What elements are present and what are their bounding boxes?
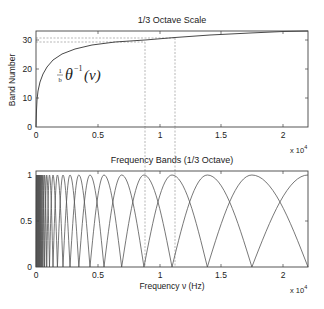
top-ylabel: Band Number [7, 54, 17, 107]
bottom-xtick-1: 1 [158, 270, 163, 280]
top-plot-title: 1/3 Octave Scale [138, 15, 207, 25]
bottom-xtick-1-5: 1.5 [215, 270, 227, 280]
svg-text:b: b [58, 76, 61, 83]
curve-annotation: 1 b θ −1 (ν) [57, 64, 101, 84]
svg-text:θ: θ [65, 66, 73, 83]
bottom-reference-lines [145, 127, 175, 267]
top-plot: 1/3 Octave Scale 0 10 20 30 [7, 15, 308, 155]
bottom-x-multiplier: x 104 [290, 284, 307, 295]
figure: 1/3 Octave Scale 0 10 20 30 [0, 0, 324, 309]
band-filter-curve [252, 175, 308, 267]
top-x-multiplier: x 104 [290, 144, 307, 155]
svg-text:1: 1 [58, 67, 61, 74]
bottom-axes-frame [36, 171, 308, 267]
svg-text:(ν): (ν) [84, 67, 101, 84]
band-filters [36, 175, 308, 267]
top-xtick-1-5: 1.5 [215, 130, 227, 140]
bottom-xtick-2: 2 [281, 270, 286, 280]
top-xtick-0-5: 0.5 [92, 130, 104, 140]
top-reference-lines [36, 38, 175, 127]
top-ytick-30: 30 [23, 35, 33, 45]
bottom-ytick-0: 0 [27, 262, 32, 272]
top-ytick-10: 10 [23, 93, 33, 103]
bottom-xlabel: Frequency ν (Hz) [139, 281, 204, 291]
bottom-plot-title: Frequency Bands (1/3 Octave) [111, 155, 234, 165]
top-xtick-2: 2 [281, 130, 286, 140]
top-xtick-1: 1 [158, 130, 163, 140]
bottom-ytick-0-5: 0.5 [20, 216, 32, 226]
bottom-xtick-0-5: 0.5 [92, 270, 104, 280]
top-xtick-0: 0 [34, 130, 39, 140]
top-axes-frame [36, 31, 308, 127]
top-ytick-0: 0 [27, 122, 32, 132]
bottom-ytick-1: 1 [27, 170, 32, 180]
top-ticks [36, 31, 308, 127]
band-number-curve [36, 31, 308, 127]
top-ytick-20: 20 [23, 64, 33, 74]
bottom-ticks [36, 171, 308, 267]
bottom-xtick-0: 0 [34, 270, 39, 280]
svg-text:−1: −1 [74, 64, 83, 73]
bottom-plot: Frequency Bands (1/3 Octave) [20, 127, 308, 295]
